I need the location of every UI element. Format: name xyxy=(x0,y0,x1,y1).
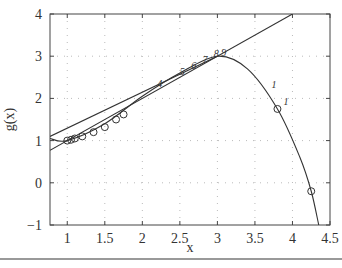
point-label: 5 xyxy=(180,66,185,77)
y-tick-label: 3 xyxy=(35,49,42,64)
y-tick-label: 0 xyxy=(35,176,42,191)
divider xyxy=(0,258,342,260)
x-tick-label: 4 xyxy=(289,231,296,246)
point-label: 1 xyxy=(283,96,288,107)
chart-container: 11.522.533.544.5−101234xg(x)45678911 xyxy=(0,0,342,268)
line-chart: 11.522.533.544.5−101234xg(x)45678911 xyxy=(0,0,342,268)
y-tick-label: 4 xyxy=(35,7,42,22)
circle-marker xyxy=(101,124,108,131)
point-label: 8 xyxy=(214,48,219,59)
point-label: 1 xyxy=(271,79,276,90)
circle-marker xyxy=(113,116,120,123)
point-label: 6 xyxy=(191,60,196,71)
x-axis-label: x xyxy=(187,240,194,255)
series-line xyxy=(50,56,319,225)
series-line xyxy=(50,14,292,150)
x-tick-label: 1 xyxy=(64,231,71,246)
y-tick-label: 2 xyxy=(35,91,42,106)
y-axis-label: g(x) xyxy=(2,108,18,132)
y-tick-label: −1 xyxy=(27,218,42,233)
x-tick-label: 3.5 xyxy=(246,231,264,246)
x-tick-label: 4.5 xyxy=(321,231,339,246)
point-label: 9 xyxy=(221,47,226,58)
x-tick-label: 2 xyxy=(139,231,146,246)
y-tick-label: 1 xyxy=(35,134,42,149)
plot-frame xyxy=(50,14,330,225)
x-tick-label: 1.5 xyxy=(96,231,114,246)
point-label: 4 xyxy=(157,78,162,89)
circle-marker xyxy=(120,111,127,118)
x-tick-label: 3 xyxy=(214,231,221,246)
